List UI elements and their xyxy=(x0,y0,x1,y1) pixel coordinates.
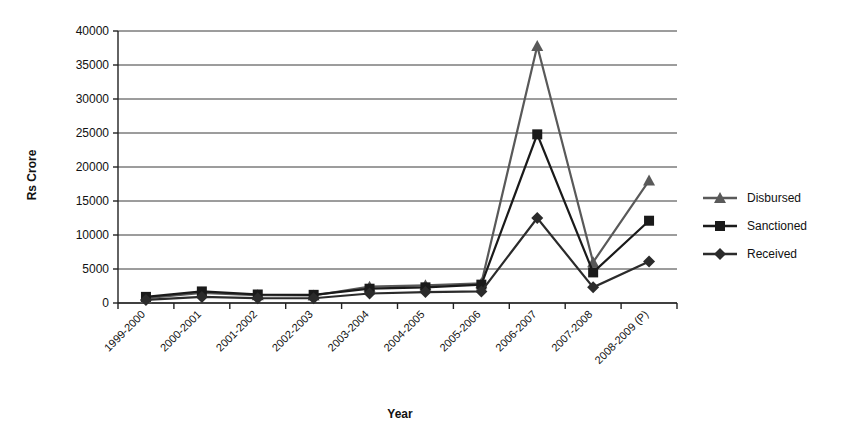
chart-figure: 0500010000150002000025000300003500040000… xyxy=(0,0,854,443)
y-tick-label: 40000 xyxy=(76,24,110,38)
y-tick-label: 35000 xyxy=(76,58,110,72)
data-point xyxy=(532,129,542,139)
y-tick-label: 5000 xyxy=(82,262,109,276)
data-point xyxy=(644,216,654,226)
legend-item-sanctioned[interactable]: Sanctioned xyxy=(703,219,807,233)
y-tick-label: 20000 xyxy=(76,160,110,174)
line-chart: 0500010000150002000025000300003500040000… xyxy=(0,0,854,443)
legend-label: Disbursed xyxy=(747,191,801,205)
y-axis-title: Rs Crore xyxy=(25,149,39,200)
y-tick-label: 30000 xyxy=(76,92,110,106)
legend-label: Received xyxy=(747,247,797,261)
y-tick-label: 0 xyxy=(102,296,109,310)
data-point xyxy=(588,267,598,277)
chart-legend: DisbursedSanctionedReceived xyxy=(703,191,807,261)
y-tick-label: 15000 xyxy=(76,194,110,208)
x-axis-title: Year xyxy=(387,407,413,421)
y-tick-label: 25000 xyxy=(76,126,110,140)
square-marker-icon xyxy=(715,221,725,231)
y-tick-label: 10000 xyxy=(76,228,110,242)
chart-background xyxy=(0,0,854,443)
legend-label: Sanctioned xyxy=(747,219,807,233)
